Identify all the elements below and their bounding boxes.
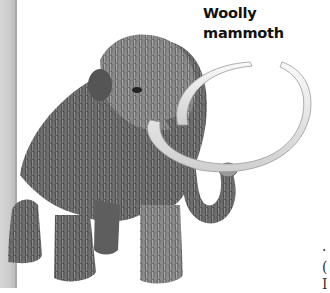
mammoth-eye [132, 87, 142, 93]
mammoth-ear [88, 69, 112, 101]
cropped-edge-text: · ( I [322, 242, 330, 293]
caption-line-2: mammoth [203, 23, 284, 43]
caption-label: Woolly mammoth [203, 3, 284, 43]
mammoth-back-right-leg [140, 205, 183, 283]
edge-text-line: I [322, 276, 330, 293]
caption-line-1: Woolly [203, 3, 284, 23]
edge-text-line: ( [322, 259, 330, 276]
mammoth-front-left-leg [8, 200, 42, 264]
edge-text-line: · [322, 242, 330, 259]
mammoth-back-left-leg [94, 200, 120, 255]
mammoth-front-right-leg [54, 215, 96, 281]
